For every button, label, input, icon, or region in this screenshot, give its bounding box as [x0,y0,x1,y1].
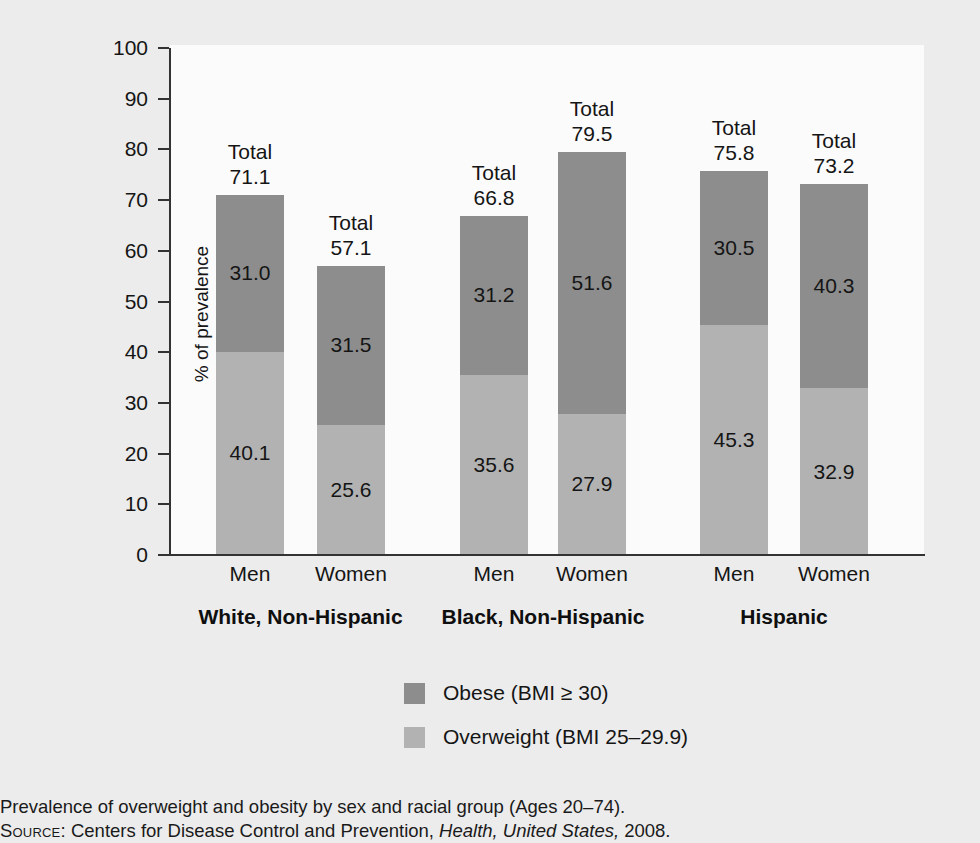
y-tick-label: 0 [86,544,148,565]
bar-total-label: Total66.8 [424,160,564,210]
bar-segment-obese: 31.2 [460,216,528,374]
y-tick-label: 40 [86,341,148,362]
bar-total-label: Total73.2 [764,128,904,178]
bar-value-obese: 40.3 [814,274,855,298]
bar-value-overweight: 25.6 [331,478,372,502]
x-category-label: Women [522,562,662,586]
y-tick-mark [158,453,169,455]
plot-area: % of prevalence 40.131.0Total71.125.631.… [170,48,924,555]
stacked-bar: 27.951.6Total79.5 [558,152,626,555]
bar-value-overweight: 32.9 [814,460,855,484]
chart-legend: Obese (BMI ≥ 30)Overweight (BMI 25–29.9) [404,671,824,759]
legend-item: Obese (BMI ≥ 30) [404,671,824,715]
x-category-label: Women [764,562,904,586]
y-axis-line [169,48,171,556]
y-tick-label: 20 [86,443,148,464]
y-tick-label: 80 [86,138,148,159]
y-tick-label-wrap: 20 [86,443,148,464]
bar-value-obese: 31.0 [230,261,271,285]
bar-total-value: 66.8 [424,185,564,210]
bar-segment-overweight: 32.9 [800,388,868,555]
legend-color-swatch [404,683,425,704]
stacked-bar: 25.631.5Total57.1 [317,266,385,555]
y-tick-label-wrap: 60 [86,240,148,261]
bar-segment-overweight: 27.9 [558,414,626,555]
bar-segment-obese: 51.6 [558,152,626,414]
y-tick-label: 30 [86,392,148,413]
bar-segment-overweight: 40.1 [216,352,284,555]
bar-segment-obese: 40.3 [800,184,868,388]
y-tick-mark [158,148,169,150]
x-axis-line [169,554,925,556]
y-tick-label: 90 [86,88,148,109]
y-tick-label: 100 [86,37,148,58]
bar-total-word: Total [522,96,662,121]
bar-value-obese: 30.5 [714,236,755,260]
bar-total-value: 73.2 [764,153,904,178]
source-pre: Centers for Disease Control and Preventi… [71,820,434,841]
x-category-label: Women [281,562,421,586]
y-tick-mark [158,250,169,252]
bar-segment-obese: 31.0 [216,195,284,352]
bar-total-label: Total57.1 [281,210,421,260]
bar-segment-obese: 30.5 [700,171,768,326]
y-tick-mark [158,554,169,556]
bar-segment-overweight: 45.3 [700,325,768,555]
bar-segment-overweight: 35.6 [460,375,528,555]
source-text: Source: Centers for Disease Control and … [0,819,960,843]
y-tick-mark [158,503,169,505]
bar-value-overweight: 27.9 [572,472,613,496]
bar-value-overweight: 40.1 [230,441,271,465]
y-tick-mark [158,199,169,201]
legend-label: Obese (BMI ≥ 30) [443,681,609,705]
bar-value-obese: 31.2 [474,283,515,307]
figure-caption: Prevalence of overweight and obesity by … [0,795,960,843]
bar-total-label: Total71.1 [180,139,320,189]
y-tick-label: 70 [86,189,148,210]
bar-total-value: 57.1 [281,235,421,260]
bar-total-value: 71.1 [180,164,320,189]
y-tick-label-wrap: 90 [86,88,148,109]
legend-item: Overweight (BMI 25–29.9) [404,715,824,759]
bar-total-word: Total [424,160,564,185]
y-tick-label-wrap: 100 [86,37,148,58]
bar-total-label: Total79.5 [522,96,662,146]
y-axis-title: % of prevalence [191,194,213,434]
bar-value-obese: 51.6 [572,271,613,295]
bar-segment-obese: 31.5 [317,266,385,426]
y-tick-mark [158,47,169,49]
y-tick-mark [158,402,169,404]
source-label: Source: [0,820,66,841]
bar-value-overweight: 35.6 [474,453,515,477]
y-tick-label-wrap: 30 [86,392,148,413]
caption-text: Prevalence of overweight and obesity by … [0,795,960,819]
stacked-bar: 40.131.0Total71.1 [216,195,284,555]
stacked-bar: 32.940.3Total73.2 [800,184,868,555]
bar-total-word: Total [281,210,421,235]
bar-value-obese: 31.5 [331,333,372,357]
bar-total-word: Total [764,128,904,153]
legend-label: Overweight (BMI 25–29.9) [443,725,688,749]
bar-value-overweight: 45.3 [714,428,755,452]
y-tick-label-wrap: 80 [86,138,148,159]
y-tick-label-wrap: 40 [86,341,148,362]
y-tick-label-wrap: 50 [86,291,148,312]
y-tick-mark [158,351,169,353]
bar-total-value: 79.5 [522,121,662,146]
bar-total-word: Total [180,139,320,164]
source-publication: Health, United States, [439,820,619,841]
stacked-bar: 35.631.2Total66.8 [460,216,528,555]
stacked-bar: 45.330.5Total75.8 [700,171,768,555]
y-tick-mark [158,301,169,303]
y-tick-label: 10 [86,493,148,514]
legend-color-swatch [404,727,425,748]
source-year: 2008. [624,820,670,841]
y-tick-label-wrap: 0 [86,544,148,565]
y-tick-label: 50 [86,291,148,312]
y-tick-mark [158,98,169,100]
y-tick-label-wrap: 10 [86,493,148,514]
y-tick-label-wrap: 70 [86,189,148,210]
bar-segment-overweight: 25.6 [317,425,385,555]
y-tick-label: 60 [86,240,148,261]
